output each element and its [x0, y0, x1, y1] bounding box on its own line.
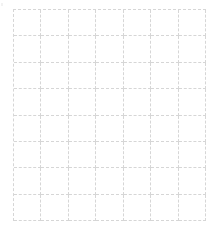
grid-cell[interactable] — [151, 63, 178, 89]
grid-cell[interactable] — [41, 63, 68, 89]
grid-cell[interactable] — [96, 63, 123, 89]
grid-cell[interactable] — [179, 63, 206, 89]
grid-cell[interactable] — [96, 36, 123, 62]
grid-cell[interactable] — [14, 10, 41, 36]
grid-cell[interactable] — [69, 63, 96, 89]
grid-cell[interactable] — [151, 89, 178, 115]
grid-cell[interactable] — [69, 168, 96, 194]
grid-cell[interactable] — [151, 195, 178, 221]
grid-cell[interactable] — [124, 63, 151, 89]
grid-cell[interactable] — [179, 89, 206, 115]
grid-cell[interactable] — [41, 36, 68, 62]
grid-cell[interactable] — [124, 142, 151, 168]
grid-cell[interactable] — [151, 168, 178, 194]
grid-cell[interactable] — [124, 195, 151, 221]
grid-cell[interactable] — [179, 168, 206, 194]
grid-cell[interactable] — [69, 195, 96, 221]
corner-mark — [1, 3, 3, 6]
grid-cell[interactable] — [151, 36, 178, 62]
grid-cell[interactable] — [124, 89, 151, 115]
grid-cell[interactable] — [14, 89, 41, 115]
grid-cell[interactable] — [41, 168, 68, 194]
grid-cell[interactable] — [41, 89, 68, 115]
grid-cell[interactable] — [124, 168, 151, 194]
grid-cell[interactable] — [14, 195, 41, 221]
grid-cell[interactable] — [41, 116, 68, 142]
empty-grid — [13, 9, 206, 221]
grid-cell[interactable] — [124, 36, 151, 62]
grid-cell[interactable] — [14, 36, 41, 62]
grid-cell[interactable] — [69, 89, 96, 115]
grid-cell[interactable] — [69, 10, 96, 36]
grid-cell[interactable] — [14, 142, 41, 168]
grid-cell[interactable] — [69, 116, 96, 142]
grid-cell[interactable] — [96, 168, 123, 194]
grid-cell[interactable] — [41, 10, 68, 36]
grid-cell[interactable] — [69, 36, 96, 62]
grid-cell[interactable] — [179, 116, 206, 142]
grid-cell[interactable] — [69, 142, 96, 168]
grid-cell[interactable] — [96, 10, 123, 36]
grid-cell[interactable] — [151, 142, 178, 168]
grid-cell[interactable] — [41, 142, 68, 168]
grid-cell[interactable] — [151, 10, 178, 36]
grid-cell[interactable] — [179, 36, 206, 62]
grid-cell[interactable] — [179, 195, 206, 221]
grid-cell[interactable] — [124, 10, 151, 36]
grid-cell[interactable] — [124, 116, 151, 142]
grid-cell[interactable] — [14, 63, 41, 89]
grid-cell[interactable] — [151, 116, 178, 142]
grid-cell[interactable] — [179, 10, 206, 36]
grid-cell[interactable] — [96, 142, 123, 168]
grid-cell[interactable] — [96, 195, 123, 221]
grid-cell[interactable] — [96, 116, 123, 142]
grid-cell[interactable] — [14, 168, 41, 194]
grid-cell[interactable] — [14, 116, 41, 142]
grid-cell[interactable] — [41, 195, 68, 221]
grid-cell[interactable] — [96, 89, 123, 115]
grid-cell[interactable] — [179, 142, 206, 168]
